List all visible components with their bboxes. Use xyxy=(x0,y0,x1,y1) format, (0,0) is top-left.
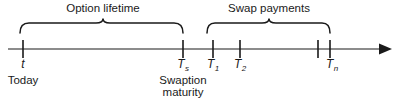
tick-symbol-T2: T xyxy=(234,57,241,71)
tick-symbol-Tn: T xyxy=(326,57,333,71)
bracket-label-swap-payments: Swap payments xyxy=(228,2,310,14)
tick-subscript-Ts: s xyxy=(185,64,189,73)
tick-label-Tn: Tn xyxy=(326,58,338,71)
tick-label-t: t xyxy=(21,58,24,71)
tick-subscript-T1: 1 xyxy=(215,64,219,73)
tick-symbol-Ts: T xyxy=(177,57,184,71)
option-lifetime-brace xyxy=(20,19,183,34)
swap-payments-brace xyxy=(207,19,330,34)
note-swaption-maturity-line2: maturity xyxy=(159,86,206,98)
note-today: Today xyxy=(8,74,39,86)
tick-symbol-T1: T xyxy=(207,57,214,71)
note-swaption-maturity: Swaption maturity xyxy=(159,74,206,98)
right-arrow-icon xyxy=(379,44,392,55)
tick-label-T1: T1 xyxy=(207,58,219,71)
tick-subscript-T2: 2 xyxy=(242,64,246,73)
tick-label-T2: T2 xyxy=(234,58,246,71)
bracket-label-option-lifetime: Option lifetime xyxy=(66,2,140,14)
swaption-timeline-figure: Option lifetime Swap payments t Ts T1 T2… xyxy=(0,0,402,111)
note-swaption-maturity-line1: Swaption xyxy=(159,74,206,86)
tick-subscript-Tn: n xyxy=(334,64,338,73)
note-today-line1: Today xyxy=(8,74,39,86)
tick-symbol-t: t xyxy=(21,57,24,71)
tick-label-Ts: Ts xyxy=(177,58,188,71)
